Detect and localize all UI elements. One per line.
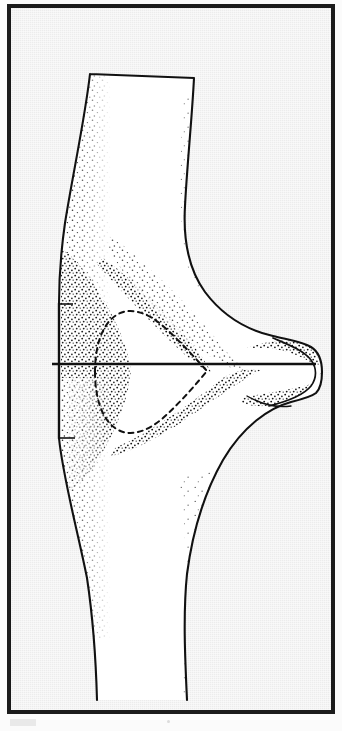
bone-body [59, 68, 322, 700]
stipple-lower-shaft [61, 378, 111, 638]
plate-frame [7, 4, 335, 714]
scanned-page [0, 0, 342, 731]
scan-speck-artifact [167, 720, 170, 723]
scan-smudge-artifact [10, 719, 36, 726]
anatomical-figure [11, 8, 331, 710]
